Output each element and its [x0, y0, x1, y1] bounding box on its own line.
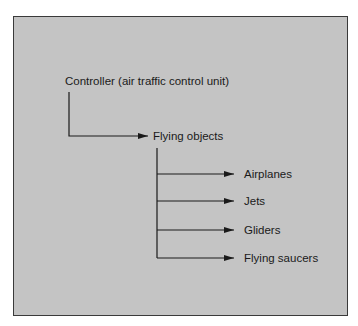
leaf-node-label: Airplanes: [244, 168, 292, 181]
leaf-node-label: Jets: [244, 195, 265, 208]
leaf-node-label: Gliders: [244, 224, 280, 237]
root-node-label: Controller (air traffic control unit): [65, 75, 229, 88]
child-node-label: Flying objects: [153, 130, 223, 143]
connector-lines: [0, 0, 358, 326]
root-to-child-connector: [69, 92, 148, 136]
leaf-node-label: Flying saucers: [244, 252, 318, 265]
